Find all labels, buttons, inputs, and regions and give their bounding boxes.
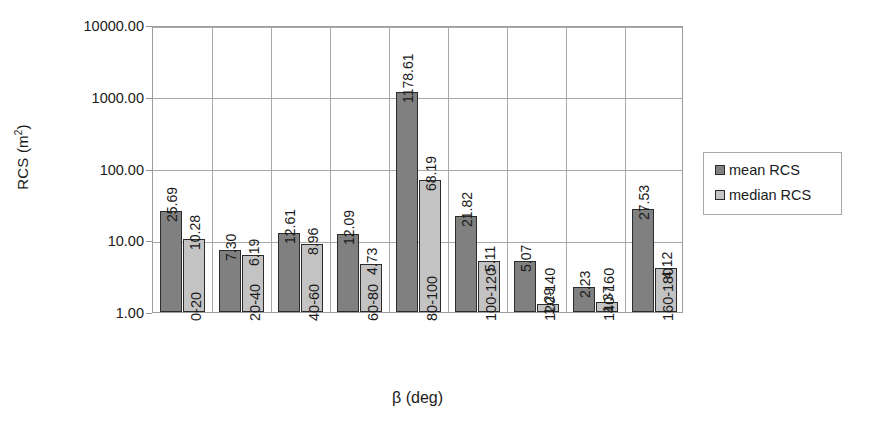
y-axis-tick-label: 1.00 <box>52 306 144 321</box>
chart-legend: mean RCS median RCS <box>703 152 842 215</box>
x-gridline <box>212 27 213 312</box>
y-axis-tick-label: 10.00 <box>52 234 144 249</box>
x-gridline <box>389 27 390 312</box>
x-axis-title: β (deg) <box>152 389 683 407</box>
legend-swatch-mean-icon <box>715 165 725 175</box>
bar-value-label: 6.19 <box>247 239 261 266</box>
x-axis-tick-label: 100-120 <box>484 268 499 321</box>
bar-mean-100-120 <box>455 216 477 312</box>
y-axis-tick-label: 100.00 <box>52 163 144 178</box>
y-axis-title-superscript: 2 <box>13 129 24 135</box>
bar-value-label: 12.09 <box>342 210 356 245</box>
bar-mean-40-60 <box>278 233 300 312</box>
x-gridline <box>448 27 449 312</box>
bar-value-label: 8.96 <box>306 227 320 254</box>
x-axis-tick-label: 40-60 <box>307 284 322 321</box>
bar-value-label: 7.30 <box>224 234 238 261</box>
x-gridline <box>625 27 626 312</box>
bar-value-label: 12.61 <box>283 209 297 244</box>
x-axis-tick-label: 0-20 <box>189 292 204 321</box>
y-axis-title: RCS (m2) <box>13 97 31 217</box>
y-axis-tickmark <box>146 313 152 314</box>
legend-swatch-median-icon <box>715 190 725 200</box>
bar-value-label: 5.07 <box>519 245 533 272</box>
bar-value-label: 21.82 <box>460 192 474 227</box>
y-axis-title-close: ) <box>14 124 31 129</box>
y-axis-tickmark <box>146 241 152 242</box>
y-axis-tick-label: 1000.00 <box>52 91 144 106</box>
legend-label-median: median RCS <box>729 188 811 203</box>
bar-value-label: 25.69 <box>165 187 179 222</box>
bar-value-label: 10.28 <box>188 215 202 250</box>
legend-label-mean: mean RCS <box>729 163 800 178</box>
x-axis-tick-label: 60-80 <box>366 284 381 321</box>
y-axis-tickmark <box>146 26 152 27</box>
bar-value-label: 2.23 <box>578 271 592 298</box>
y-axis-title-base: RCS (m <box>14 135 31 190</box>
bar-value-label: 27.53 <box>637 185 651 220</box>
x-axis-tick-label: 160-180 <box>661 268 676 321</box>
bar-value-label: 68.19 <box>424 156 438 191</box>
x-gridline <box>507 27 508 312</box>
y-axis-tick-label: 10000.00 <box>52 19 144 34</box>
x-axis-tick-label: 20-40 <box>248 284 263 321</box>
y-axis-tick-labels: 1.0010.00100.001000.0010000.00 <box>48 0 144 434</box>
bar-value-label: 1178.61 <box>401 53 415 103</box>
x-axis-tick-label: 120-140 <box>543 268 558 321</box>
bar-mean-160-180 <box>632 209 654 312</box>
rcs-bar-chart: RCS (m2) 1.0010.00100.001000.0010000.00 … <box>0 0 887 434</box>
x-gridline <box>566 27 567 312</box>
y-gridline <box>153 27 682 28</box>
x-axis-tick-label: 140-160 <box>602 268 617 321</box>
legend-item-mean-rcs: mean RCS <box>715 163 800 178</box>
bar-mean-80-100 <box>396 92 418 312</box>
x-axis-tick-label: 80-100 <box>425 276 440 321</box>
bar-mean-0-20 <box>160 211 182 312</box>
bar-mean-60-80 <box>337 234 359 312</box>
x-gridline <box>271 27 272 312</box>
legend-item-median-rcs: median RCS <box>715 188 811 203</box>
x-gridline <box>330 27 331 312</box>
bar-value-label: 4.73 <box>365 247 379 274</box>
y-axis-tickmark <box>146 170 152 171</box>
y-axis-tickmark <box>146 98 152 99</box>
